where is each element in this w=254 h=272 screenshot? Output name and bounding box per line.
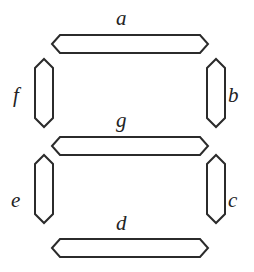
- segment-d: [52, 239, 208, 257]
- segment-label-d: d: [116, 213, 127, 234]
- segments-group: [35, 35, 225, 257]
- seven-segment-display-svg: [0, 0, 254, 272]
- segment-label-e: e: [11, 190, 20, 211]
- segment-label-b: b: [228, 85, 239, 106]
- segment-label-g: g: [116, 110, 127, 131]
- segment-label-f: f: [13, 85, 19, 106]
- segment-f: [35, 59, 53, 127]
- segment-e: [35, 155, 53, 223]
- segment-g: [52, 137, 208, 155]
- segment-b: [207, 59, 225, 127]
- segment-label-a: a: [116, 8, 127, 29]
- segment-label-c: c: [228, 190, 237, 211]
- segment-a: [52, 35, 208, 53]
- segment-c: [207, 155, 225, 223]
- seven-segment-display-figure: abcdefg: [0, 0, 254, 272]
